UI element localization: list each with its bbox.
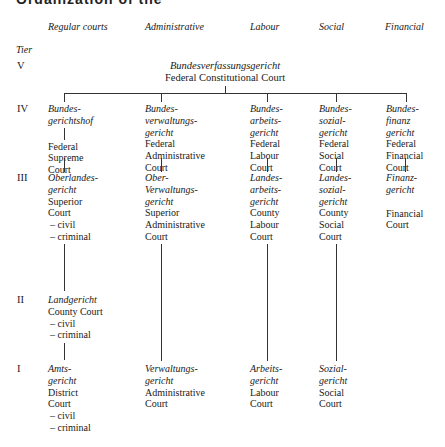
english-name-line: County Court	[48, 306, 103, 318]
german-name-line: finanz	[386, 115, 423, 127]
node-sozialgericht: Sozial- gericht Social Court	[319, 363, 347, 410]
german-name-line: Verwaltungs-	[145, 184, 205, 196]
connector-regular-iv-inner	[64, 128, 65, 140]
division-civil: – civil	[48, 410, 91, 422]
tier-label-iii: III	[17, 172, 28, 184]
node-federal-constitutional-court: Bundesverfassungsgericht Federal Constit…	[150, 60, 300, 84]
german-name-line: Bundes-	[250, 103, 283, 115]
node-landessozialgericht: Landes- sozial- gericht County Social Co…	[319, 172, 351, 243]
column-header-social: Social	[319, 21, 344, 33]
connector-labour-iv-iii	[267, 158, 268, 172]
english-name-line: Federal	[386, 138, 423, 150]
column-header-labour: Labour	[250, 21, 279, 33]
connector-labour-iii-i	[267, 244, 268, 361]
german-name-line: Landgericht	[48, 294, 103, 306]
english-name-line: Financial	[386, 208, 423, 220]
node-bundesverwaltungsgericht: Bundes- verwaltungs- gericht Federal Adm…	[145, 103, 205, 174]
english-name-line: Federal	[250, 138, 283, 150]
tier-label-i: I	[17, 363, 21, 375]
german-name-line: Oberlandes-	[48, 172, 98, 184]
english-name-line: Supreme	[48, 152, 93, 164]
connector-v-administrative	[161, 93, 162, 102]
node-amtsgericht: Amts- gericht District Court – civil – c…	[48, 363, 91, 434]
english-name-line: Federal	[319, 138, 352, 150]
connector-regular-iii-ii	[64, 244, 65, 291]
english-name-line: County	[250, 207, 282, 219]
german-name-line: Bundes-	[145, 103, 205, 115]
division-criminal: – criminal	[48, 231, 98, 243]
english-name-line: Court	[145, 231, 205, 243]
english-name-line: Court	[145, 398, 205, 410]
german-name-line: Landes-	[319, 172, 351, 184]
english-name-line: Court	[48, 398, 91, 410]
connector-v-financial	[406, 93, 407, 102]
german-name-line: Sozial-	[319, 363, 347, 375]
german-name-line: arbeits-	[250, 184, 282, 196]
connector-social-iv-iii	[336, 158, 337, 172]
german-name-line: gericht	[250, 127, 283, 139]
node-bundesgerichtshof: Bundes- gerichtshof Federal Supreme Cour…	[48, 103, 93, 176]
english-name-line: Social	[319, 219, 351, 231]
german-name-line: gericht	[319, 196, 351, 208]
node-landgericht: Landgericht County Court – civil – crimi…	[48, 294, 103, 341]
tier-label-v: V	[17, 60, 25, 72]
node-verwaltungsgericht: Verwaltungs- gericht Administrative Cour…	[145, 363, 205, 410]
english-name-line: Court	[48, 207, 98, 219]
connector-v-labour	[267, 93, 268, 102]
connector-v-social	[336, 93, 337, 102]
german-name-line: gericht	[319, 127, 352, 139]
node-oberlandesgericht: Oberlandes- gericht Superior Court – civ…	[48, 172, 98, 243]
german-name-line: arbeits-	[250, 115, 283, 127]
node-finanzgericht: Finanz- gericht Financial Court	[386, 172, 423, 231]
german-name-line: gericht	[48, 184, 98, 196]
connector-v-regular	[64, 93, 65, 102]
german-name-line: gericht	[386, 127, 423, 139]
german-name-line: Finanz-	[386, 172, 423, 184]
english-name-line: Administrative	[145, 150, 205, 162]
division-criminal: – criminal	[48, 422, 91, 434]
english-name-line: Administrative	[145, 387, 205, 399]
german-name-line: Arbeits-	[250, 363, 282, 375]
english-name-line: Labour	[250, 387, 282, 399]
english-name: Federal Constitutional Court	[150, 72, 300, 84]
connector-regular-iv-iii	[64, 158, 65, 172]
english-name-line: Court	[319, 231, 351, 243]
connector-v-bar	[64, 93, 407, 94]
german-name-line: sozial-	[319, 115, 352, 127]
division-civil: – civil	[48, 219, 98, 231]
connector-financial-iv-iii	[405, 158, 406, 172]
english-name-line: Federal	[145, 138, 205, 150]
german-name-line: gericht	[250, 375, 282, 387]
german-name-line: gericht	[145, 127, 205, 139]
german-name-line: sozial-	[319, 184, 351, 196]
english-name-line: Court	[250, 231, 282, 243]
connector-regular-ii-i	[64, 343, 65, 360]
node-arbeitsgericht: Arbeits- gericht Labour Court	[250, 363, 282, 410]
german-name-line: Verwaltungs-	[145, 363, 205, 375]
connector-social-iii-i	[336, 244, 337, 361]
english-name-line: County	[319, 207, 351, 219]
english-name-line: Court	[319, 398, 347, 410]
german-name-line: Bundes-	[386, 103, 423, 115]
page-heading: Organization of the judiciary	[16, 0, 186, 4]
node-landesarbeitsgericht: Landes- arbeits- gericht County Labour C…	[250, 172, 282, 243]
german-name-line: gericht	[145, 196, 205, 208]
german-name-line: gericht	[386, 184, 423, 196]
german-name-line: Ober-	[145, 172, 205, 184]
english-name-line: Labour	[250, 219, 282, 231]
column-header-regular: Regular courts	[48, 21, 108, 33]
german-name-line: Bundes-	[319, 103, 352, 115]
division-criminal: – criminal	[48, 329, 103, 341]
german-name-line: gericht	[319, 375, 347, 387]
english-name-line: District	[48, 387, 91, 399]
page-heading-clipped: Organization of the judiciary	[16, 0, 186, 4]
tier-label-iv: IV	[17, 103, 28, 115]
node-oberverwaltungsgericht: Ober- Verwaltungs- gericht Superior Admi…	[145, 172, 205, 243]
german-name-line: gericht	[250, 196, 282, 208]
german-name-line: gericht	[48, 375, 91, 387]
english-name-line: Superior	[145, 207, 205, 219]
english-name-line: Court	[386, 219, 423, 231]
column-header-administrative: Administrative	[145, 21, 204, 33]
tier-label-ii: II	[17, 294, 24, 306]
connector-administrative-iv-iii	[161, 158, 162, 172]
